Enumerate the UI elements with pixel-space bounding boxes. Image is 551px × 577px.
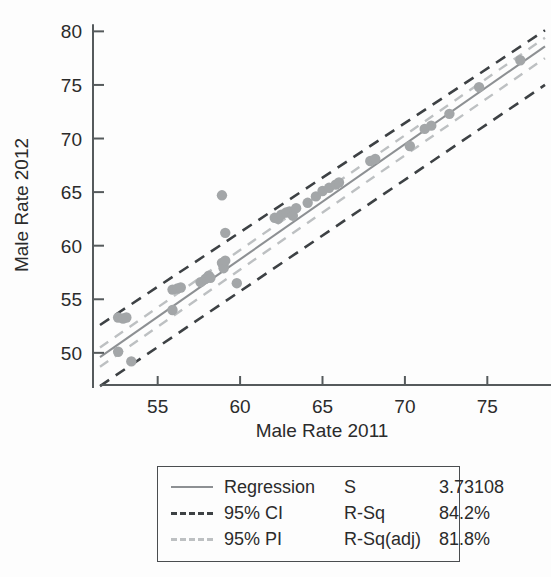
y-tick-label: 60 [61, 236, 82, 257]
y-tick-label: 70 [61, 129, 82, 150]
pi-lower-line [100, 58, 545, 367]
dashed-dark-line-swatch [171, 506, 213, 520]
regression-line [100, 46, 545, 357]
y-tick-label: 75 [61, 75, 82, 96]
data-point [126, 356, 136, 366]
x-tick-label: 70 [394, 396, 415, 417]
legend-series-label: 95% PI [224, 529, 344, 550]
data-point [444, 109, 454, 119]
legend-stat-name: R-Sq [344, 503, 439, 524]
legend-row: Regression S 3.73108 [158, 474, 459, 500]
data-point [405, 141, 415, 151]
data-point [121, 312, 131, 322]
data-point [370, 154, 380, 164]
y-axis-title: Male Rate 2012 [11, 138, 32, 272]
data-point [474, 82, 484, 92]
data-point [515, 55, 525, 65]
legend-row: 95% CI R-Sq 84.2% [158, 500, 459, 526]
ci-upper-line [100, 30, 545, 325]
legend-series-label: 95% CI [224, 503, 344, 524]
data-point [217, 190, 227, 200]
x-tick-label: 60 [230, 396, 251, 417]
x-axis-title: Male Rate 2011 [256, 420, 389, 441]
data-point [220, 255, 230, 265]
legend-row: 95% PI R-Sq(adj) 81.8% [158, 526, 459, 552]
legend-stat-name: S [344, 477, 439, 498]
data-point [176, 282, 186, 292]
regression-scatter-figure: 556065707550556065707580Male Rate 2011Ma… [0, 0, 551, 577]
y-tick-label: 50 [61, 343, 82, 364]
dashed-light-line-swatch [171, 532, 213, 546]
x-tick-label: 65 [312, 396, 333, 417]
legend-series-label: Regression [224, 477, 344, 498]
legend-stat-value: 84.2% [439, 503, 490, 524]
ci-lower-line [100, 85, 545, 386]
legend-stat-value: 81.8% [439, 529, 490, 550]
data-point [232, 278, 242, 288]
x-tick-label: 55 [147, 396, 168, 417]
data-point [334, 177, 344, 187]
x-tick-label: 75 [477, 396, 498, 417]
plot-area: 556065707550556065707580Male Rate 2011Ma… [0, 0, 551, 460]
y-tick-label: 55 [61, 289, 82, 310]
legend-box: Regression S 3.73108 95% CI R-Sq 84.2% 9… [157, 466, 460, 562]
legend-stat-name: R-Sq(adj) [344, 529, 439, 550]
data-point [113, 347, 123, 357]
y-tick-label: 65 [61, 182, 82, 203]
legend-stat-value: 3.73108 [439, 477, 504, 498]
data-point [167, 305, 177, 315]
data-point [220, 228, 230, 238]
data-point [205, 273, 215, 283]
y-tick-label: 80 [61, 21, 82, 42]
data-point [426, 120, 436, 130]
data-point [302, 198, 312, 208]
solid-line-swatch [171, 480, 213, 494]
data-point [291, 203, 301, 213]
